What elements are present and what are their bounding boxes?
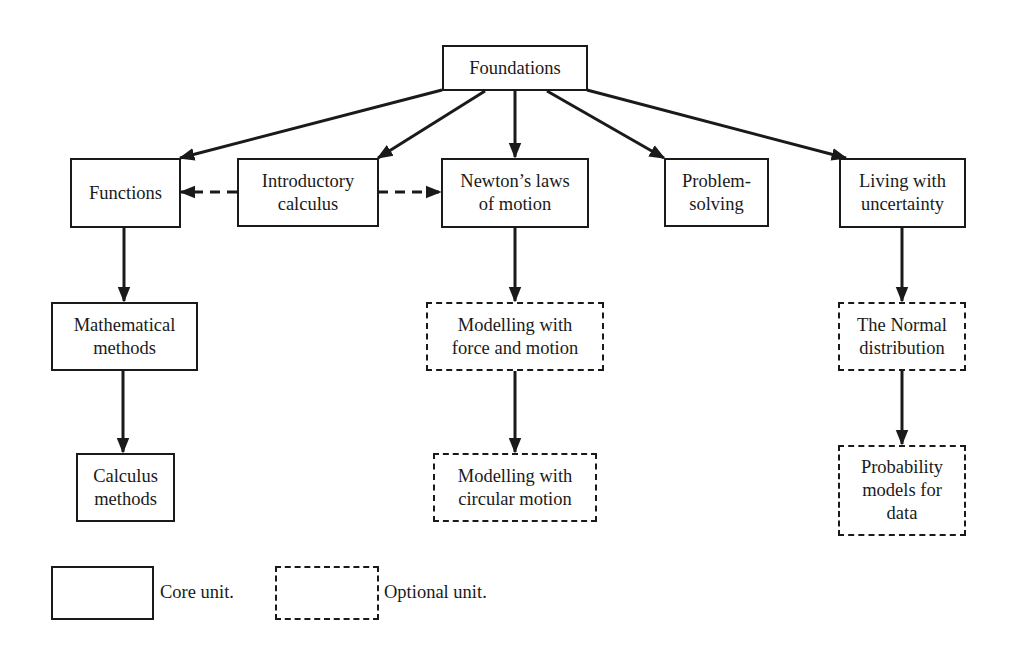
legend-optional-label: Optional unit. xyxy=(384,581,487,603)
node-label: Calculus methods xyxy=(93,465,158,511)
node-label: Living with uncertainty xyxy=(859,170,946,216)
node-mathematical-methods: Mathematical methods xyxy=(51,302,198,371)
node-normal-distribution: The Normal distribution xyxy=(838,302,966,371)
node-label: Introductory calculus xyxy=(262,170,354,216)
legend-core-swatch xyxy=(51,566,154,620)
node-living-with-uncertainty: Living with uncertainty xyxy=(839,158,966,228)
node-label: The Normal distribution xyxy=(857,314,947,360)
node-label: Foundations xyxy=(469,57,560,80)
node-label: Newton’s laws of motion xyxy=(460,170,569,216)
node-modelling-force-motion: Modelling with force and motion xyxy=(426,302,604,371)
node-modelling-circular-motion: Modelling with circular motion xyxy=(433,453,597,522)
edge-foundations-problem-solving xyxy=(547,91,664,158)
legend-optional-swatch xyxy=(275,566,379,620)
legend-core-label: Core unit. xyxy=(160,581,234,603)
node-calculus-methods: Calculus methods xyxy=(76,453,175,522)
node-label: Functions xyxy=(89,182,162,205)
edge-foundations-functions xyxy=(180,90,442,158)
node-label: Modelling with force and motion xyxy=(452,314,578,360)
node-probability-models: Probability models for data xyxy=(838,445,966,536)
node-label: Mathematical methods xyxy=(74,314,176,360)
node-functions: Functions xyxy=(70,158,181,228)
node-problem-solving: Problem- solving xyxy=(664,158,769,227)
node-label: Modelling with circular motion xyxy=(458,465,573,511)
edge-foundations-living-with-uncertainty xyxy=(587,90,846,158)
node-newtons-laws: Newton’s laws of motion xyxy=(441,158,589,228)
node-foundations: Foundations xyxy=(442,45,588,91)
node-label: Probability models for data xyxy=(861,456,943,525)
node-introductory-calculus: Introductory calculus xyxy=(237,158,379,227)
node-label: Problem- solving xyxy=(682,170,751,216)
